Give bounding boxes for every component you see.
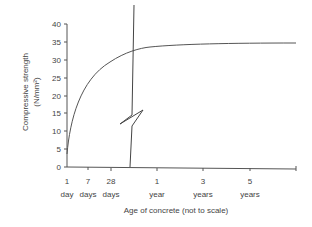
svg-text:0: 0 bbox=[57, 163, 62, 172]
y-tick-labels: 40 35 30 25 20 15 10 5 0 bbox=[52, 20, 61, 172]
strength-chart: 40 35 30 25 20 15 10 5 0 1 day 7 days 28… bbox=[0, 0, 312, 227]
svg-text:year: year bbox=[149, 190, 165, 199]
svg-text:Compressive strength: Compressive strength bbox=[21, 53, 30, 131]
strength-curve bbox=[67, 43, 296, 154]
axis-break-line bbox=[120, 5, 143, 167]
svg-text:day: day bbox=[61, 190, 74, 199]
svg-text:25: 25 bbox=[52, 74, 61, 83]
svg-text:28: 28 bbox=[107, 177, 116, 186]
svg-text:5: 5 bbox=[248, 177, 253, 186]
svg-text:20: 20 bbox=[52, 92, 61, 101]
svg-text:1: 1 bbox=[65, 177, 70, 186]
svg-text:days: days bbox=[103, 190, 120, 199]
svg-text:30: 30 bbox=[52, 56, 61, 65]
svg-text:35: 35 bbox=[52, 38, 61, 47]
x-tick-labels: 1 day 7 days 28 days 1 year 3 years 5 ye… bbox=[61, 177, 260, 199]
svg-text:3: 3 bbox=[201, 177, 206, 186]
svg-text:(N/mm²): (N/mm²) bbox=[32, 77, 41, 107]
svg-text:years: years bbox=[240, 190, 260, 199]
svg-text:15: 15 bbox=[52, 109, 61, 118]
x-axis-title: Age of concrete (not to scale) bbox=[124, 206, 229, 215]
y-axis-title: Compressive strength (N/mm²) bbox=[21, 53, 41, 131]
svg-text:40: 40 bbox=[52, 20, 61, 29]
svg-text:7: 7 bbox=[86, 177, 91, 186]
svg-text:10: 10 bbox=[52, 127, 61, 136]
svg-text:days: days bbox=[80, 190, 97, 199]
svg-text:1: 1 bbox=[155, 177, 160, 186]
svg-text:5: 5 bbox=[57, 145, 62, 154]
svg-text:years: years bbox=[193, 190, 213, 199]
x-axis bbox=[67, 167, 296, 169]
